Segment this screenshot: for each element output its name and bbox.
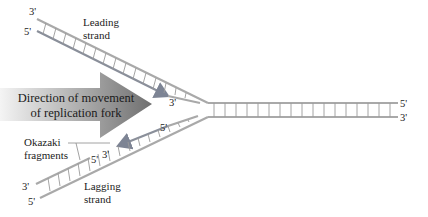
okazaki-label-1: Okazaki [24, 136, 61, 148]
fork-arrow-label-line2: of replication fork [2, 106, 150, 121]
lagging-5prime-label: 5' [28, 196, 35, 208]
duplex-3prime-label: 3' [400, 112, 407, 124]
leading-strand-label-1: Leading [83, 16, 119, 28]
lagging-strand-label-1: Lagging [84, 180, 121, 192]
lagging-fragment2-5prime-label: 5' [160, 122, 167, 134]
lagging-strand-label-2: strand [84, 193, 111, 205]
parent-duplex [208, 103, 398, 117]
lagging-fragment-5prime-label: 5' [91, 154, 98, 166]
fork-arrow-label-line1: Direction of movement [2, 91, 150, 106]
leading-3prime-label: 3' [29, 6, 36, 18]
leading-new-3prime-label: 3' [169, 97, 176, 109]
leading-strand-label-2: strand [83, 29, 110, 41]
okazaki-label-2: fragments [24, 149, 68, 161]
leading-5prime-label: 5' [24, 26, 31, 38]
duplex-5prime-label: 5' [400, 98, 407, 110]
fork-arrow-label: Direction of movement of replication for… [2, 91, 150, 121]
lagging-3prime-label: 3' [22, 181, 29, 193]
lagging-fragment-3prime-label: 3' [102, 149, 109, 161]
